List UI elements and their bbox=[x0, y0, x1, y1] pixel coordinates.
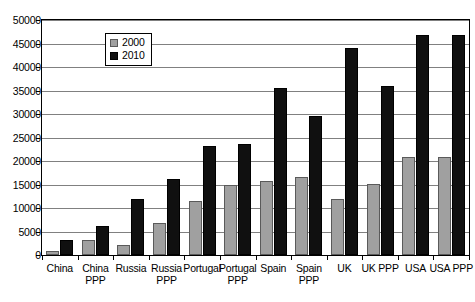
bar-2000 bbox=[260, 181, 273, 255]
bar-2010 bbox=[60, 240, 73, 256]
bar-2000 bbox=[189, 201, 202, 255]
bar-2000 bbox=[224, 185, 237, 256]
x-tick-label-line: PPP bbox=[145, 274, 189, 286]
bar-2010 bbox=[131, 199, 144, 255]
x-tick-mark bbox=[433, 256, 434, 260]
y-tick-mark bbox=[36, 185, 40, 186]
bar-2000 bbox=[117, 245, 130, 255]
bar-2010 bbox=[238, 144, 251, 255]
bar-2010 bbox=[167, 179, 180, 255]
x-tick-label: USA PPP bbox=[429, 262, 473, 274]
x-tick-mark bbox=[256, 256, 257, 260]
legend-label-2010: 2010 bbox=[122, 50, 145, 61]
bar-2010 bbox=[96, 226, 109, 255]
bar-group bbox=[398, 20, 434, 255]
x-axis: ChinaChinaPPPRussiaRussiaPPPPortugalPort… bbox=[42, 256, 470, 302]
bar-group bbox=[220, 20, 256, 255]
x-tick-mark bbox=[398, 256, 399, 260]
bar-group bbox=[42, 20, 78, 255]
x-tick-label-line: USA PPP bbox=[429, 262, 473, 274]
legend-swatch-2010-icon bbox=[110, 52, 118, 60]
y-tick-mark bbox=[36, 20, 40, 21]
bar-2010 bbox=[203, 146, 216, 255]
bar-2000 bbox=[46, 251, 59, 255]
x-tick-mark bbox=[291, 256, 292, 260]
x-tick-mark bbox=[78, 256, 79, 260]
x-tick-mark bbox=[362, 256, 363, 260]
bar-group bbox=[184, 20, 220, 255]
bar-2000 bbox=[438, 157, 451, 255]
bar-group bbox=[149, 20, 185, 255]
y-tick-mark bbox=[36, 138, 40, 139]
bar-2010 bbox=[345, 48, 358, 255]
x-tick-mark bbox=[327, 256, 328, 260]
bar-group bbox=[433, 20, 469, 255]
chart-legend: 2000 2010 bbox=[105, 33, 152, 66]
x-tick-mark bbox=[469, 256, 470, 260]
legend-item-2000: 2000 bbox=[110, 36, 145, 49]
bar-2000 bbox=[331, 199, 344, 255]
y-tick-mark bbox=[36, 114, 40, 115]
bar-2000 bbox=[295, 177, 308, 255]
bar-group bbox=[327, 20, 363, 255]
y-tick-mark bbox=[36, 67, 40, 68]
y-tick-mark bbox=[36, 44, 40, 45]
x-tick-mark bbox=[184, 256, 185, 260]
bar-2000 bbox=[82, 240, 95, 255]
x-tick-label-line: PPP bbox=[287, 274, 331, 286]
legend-label-2000: 2000 bbox=[122, 37, 145, 48]
bar-2000 bbox=[367, 184, 380, 255]
x-tick-label-line: PPP bbox=[74, 274, 118, 286]
bar-2010 bbox=[274, 88, 287, 255]
bar-2010 bbox=[381, 86, 394, 255]
legend-swatch-2000-icon bbox=[110, 39, 118, 47]
bar-2010 bbox=[309, 116, 322, 255]
bar-group bbox=[256, 20, 292, 255]
bar-2010 bbox=[452, 35, 465, 255]
bar-2010 bbox=[416, 35, 429, 255]
x-tick-label-line: PPP bbox=[216, 274, 260, 286]
y-tick-mark bbox=[36, 161, 40, 162]
y-tick-mark bbox=[36, 91, 40, 92]
y-tick-mark bbox=[36, 232, 40, 233]
y-axis: 0500010000150002000025000300003500040000… bbox=[0, 0, 41, 302]
bar-group bbox=[291, 20, 327, 255]
x-tick-mark bbox=[42, 256, 43, 260]
x-tick-mark bbox=[220, 256, 221, 260]
x-tick-mark bbox=[149, 256, 150, 260]
x-tick-mark bbox=[113, 256, 114, 260]
y-tick-mark bbox=[36, 208, 40, 209]
legend-item-2010: 2010 bbox=[110, 49, 145, 62]
bar-2000 bbox=[153, 223, 166, 255]
bar-chart: 0500010000150002000025000300003500040000… bbox=[0, 0, 475, 302]
bar-group bbox=[362, 20, 398, 255]
y-tick-mark bbox=[36, 255, 40, 256]
bar-2000 bbox=[402, 157, 415, 255]
